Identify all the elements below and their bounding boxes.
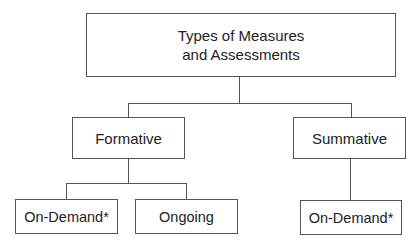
connector-formative-horizontal <box>66 183 187 184</box>
node-ongoing: Ongoing <box>135 199 238 234</box>
connector-level2-horizontal <box>128 103 352 104</box>
node-summative: Summative <box>293 117 406 159</box>
node-formative-on-demand: On-Demand* <box>15 199 118 234</box>
root-node-label-line2: and Assessments <box>182 45 300 64</box>
root-node-label-line1: Types of Measures <box>178 26 305 45</box>
node-formative-on-demand-label: On-Demand* <box>24 209 109 225</box>
node-ongoing-label: Ongoing <box>159 209 214 225</box>
node-summative-on-demand-label: On-Demand* <box>309 210 394 226</box>
connector-to-ongoing <box>186 183 187 199</box>
node-formative-label: Formative <box>95 130 162 147</box>
node-formative: Formative <box>72 117 185 159</box>
connector-summative-down <box>350 159 351 200</box>
connector-to-formative <box>128 103 129 117</box>
node-summative-on-demand: On-Demand* <box>300 200 402 235</box>
connector-to-summative <box>351 103 352 117</box>
root-node-types-of-measures: Types of Measures and Assessments <box>86 13 396 77</box>
connector-to-formative-on-demand <box>66 183 67 199</box>
connector-root-down <box>239 77 240 104</box>
connector-formative-down <box>128 159 129 184</box>
node-summative-label: Summative <box>312 130 387 147</box>
